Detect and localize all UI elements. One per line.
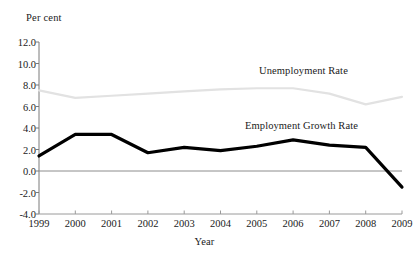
x-tick-label: 2002 [128, 218, 168, 229]
series-label-employment-growth-rate: Employment Growth Rate [245, 120, 358, 131]
x-tick-label: 2006 [273, 218, 313, 229]
x-tick-label: 2005 [237, 218, 277, 229]
x-tick-label: 2000 [55, 218, 95, 229]
series-label-unemployment-rate: Unemployment Rate [259, 65, 348, 76]
x-tick-label: 2007 [309, 218, 349, 229]
series-line-employment-growth-rate [39, 134, 402, 187]
x-tick-label: 2003 [164, 218, 204, 229]
x-tick-label: 2009 [382, 218, 417, 229]
x-axis-title: Year [0, 236, 409, 247]
series-line-unemployment-rate [39, 88, 402, 104]
x-tick-label: 2008 [346, 218, 386, 229]
x-tick-label: 2001 [92, 218, 132, 229]
x-tick-label: 2004 [201, 218, 241, 229]
x-tick-label: 1999 [19, 218, 59, 229]
